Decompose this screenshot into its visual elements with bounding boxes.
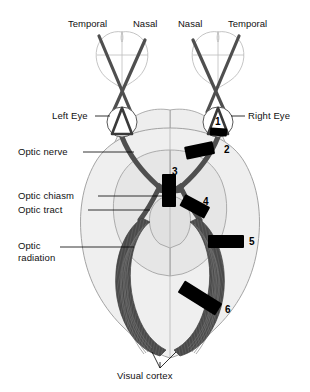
label-optic-radiation-line2: radiation bbox=[18, 252, 55, 263]
lesion-bar-3 bbox=[162, 174, 176, 207]
label-optic-nerve: Optic nerve bbox=[18, 146, 68, 157]
left-eye-globe bbox=[107, 107, 137, 137]
lesion-number-1: 1 bbox=[215, 116, 221, 127]
label-optic-tract: Optic tract bbox=[18, 204, 62, 215]
lesion-number-3: 3 bbox=[172, 166, 178, 177]
lesion-bar-1 bbox=[210, 127, 228, 136]
label-visual-cortex: Visual cortex bbox=[117, 370, 173, 381]
right-field-rays bbox=[193, 36, 239, 112]
label-optic-radiation-line1: Optic bbox=[18, 240, 41, 251]
lesion-bar-5 bbox=[208, 235, 244, 248]
label-right-eye: Right Eye bbox=[248, 110, 290, 121]
field-label-left-nasal: Nasal bbox=[133, 18, 157, 29]
lesion-number-5: 5 bbox=[249, 236, 255, 247]
lesion-number-2: 2 bbox=[224, 144, 230, 155]
field-label-right-temporal: Temporal bbox=[228, 18, 267, 29]
label-left-eye: Left Eye bbox=[52, 110, 88, 121]
label-optic-chiasm: Optic chiasm bbox=[18, 190, 74, 201]
lesion-number-6: 6 bbox=[225, 304, 231, 315]
visual-pathway-diagram: Temporal Nasal Nasal Temporal Left Eye R… bbox=[0, 0, 310, 392]
field-label-left-temporal: Temporal bbox=[68, 18, 107, 29]
brain-outline bbox=[81, 109, 260, 358]
left-visual-field bbox=[96, 31, 148, 88]
field-label-right-nasal: Nasal bbox=[178, 18, 202, 29]
lesion-number-4: 4 bbox=[203, 196, 209, 207]
